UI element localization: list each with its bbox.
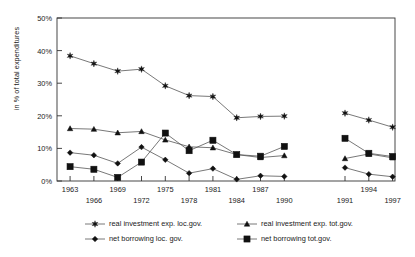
series-star: [67, 53, 395, 131]
legend-item-real-investment-exp-loc-gov[interactable]: real investment exp. loc.gov.: [84, 218, 236, 230]
series-triangle: [67, 126, 395, 161]
legend-item-real-investment-exp-tot-gov[interactable]: real investment exp. tot.gov.: [236, 218, 394, 230]
x-axis-tick-label: 1972: [133, 196, 149, 205]
legend-label: net borrowing loc. gov.: [106, 234, 183, 243]
x-axis-tick-label: 1963: [62, 185, 78, 194]
legend-row: real investment exp. loc.gov. real inves…: [84, 216, 394, 231]
x-axis-tick-label: 1966: [86, 196, 102, 205]
x-axis-tick-label: 1978: [181, 196, 197, 205]
chart-legend: real investment exp. loc.gov. real inves…: [84, 216, 394, 246]
x-axis-tick-label: 1984: [228, 196, 244, 205]
diamond-marker-icon: [84, 233, 106, 245]
legend-row: net borrowing loc. gov. net borrowing to…: [84, 231, 394, 246]
legend-label: real investment exp. loc.gov.: [106, 219, 202, 228]
legend-item-net-borrowing-tot-gov[interactable]: net borrowing tot.gov.: [236, 233, 394, 245]
x-axis-tick-label: 1969: [109, 185, 125, 194]
square-marker-icon: [236, 233, 258, 245]
star-marker-icon: [84, 218, 106, 230]
x-axis-tick-label: 1994: [361, 185, 377, 194]
chart-container: in % of total expenditures 0%10%20%30%40…: [0, 0, 415, 257]
series-square: [67, 130, 396, 180]
x-axis-tick-label: 1991: [337, 196, 353, 205]
x-axis-tick-label: 1981: [205, 185, 221, 194]
legend-label: net borrowing tot.gov.: [258, 234, 332, 243]
x-axis-tick-label: 1975: [157, 185, 173, 194]
x-axis-tick-label: 1987: [252, 185, 268, 194]
x-axis-tick-label: 1997: [384, 196, 400, 205]
x-axis-tick-label: 1990: [276, 196, 292, 205]
legend-label: real investment exp. tot.gov.: [258, 219, 353, 228]
legend-item-net-borrowing-loc-gov[interactable]: net borrowing loc. gov.: [84, 233, 236, 245]
triangle-marker-icon: [236, 218, 258, 230]
